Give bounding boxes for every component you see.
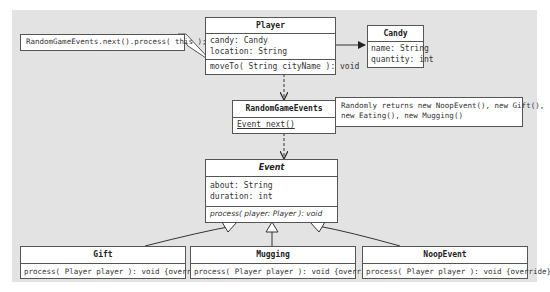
- method: moveTo( String cityName ): void: [210, 61, 331, 72]
- attribute: duration: int: [210, 191, 333, 202]
- method: process( Player player ): void {override…: [24, 266, 182, 277]
- class-noop-event-name: NoopEvent: [363, 247, 527, 264]
- method: process( player: Player ): void: [210, 208, 333, 219]
- class-random-game-events-methods: Event next(): [233, 118, 335, 131]
- attribute: name: String: [371, 43, 420, 54]
- note-next-line2: new Eating(), new Mugging(): [341, 111, 517, 121]
- method: Event next(): [237, 119, 331, 130]
- class-noop-event-methods: process( Player player ): void {override…: [363, 264, 527, 279]
- class-event-attributes: about: String duration: int: [206, 177, 337, 206]
- class-random-game-events-name: RandomGameEvents: [233, 101, 335, 118]
- class-mugging[interactable]: Mugging process( Player player ): void {…: [190, 246, 356, 279]
- method: process( Player player ): void {override…: [366, 266, 524, 277]
- class-player-attributes: candy: Candy location: String: [206, 34, 335, 59]
- class-player[interactable]: Player candy: Candy location: String mov…: [205, 17, 336, 75]
- attribute: quantity: int: [371, 54, 420, 65]
- class-gift-name: Gift: [21, 247, 185, 264]
- class-candy-name: Candy: [368, 26, 423, 42]
- attribute: location: String: [210, 46, 331, 57]
- attribute: about: String: [210, 180, 333, 191]
- class-event[interactable]: Event about: String duration: int proces…: [205, 159, 338, 223]
- note-next: Randomly returns new NoopEvent(), new Gi…: [335, 97, 523, 127]
- class-player-name: Player: [206, 18, 335, 34]
- class-mugging-methods: process( Player player ): void {override…: [191, 264, 355, 279]
- class-mugging-name: Mugging: [191, 247, 355, 264]
- class-gift[interactable]: Gift process( Player player ): void {ove…: [20, 246, 186, 279]
- class-candy[interactable]: Candy name: String quantity: int: [367, 25, 424, 68]
- class-noop-event[interactable]: NoopEvent process( Player player ): void…: [362, 246, 528, 279]
- method: process( Player player ): void {override…: [194, 266, 352, 277]
- class-gift-methods: process( Player player ): void {override…: [21, 264, 185, 279]
- class-random-game-events[interactable]: RandomGameEvents Event next(): [232, 100, 336, 134]
- note-move-to-text: RandomGameEvents.next().process( this );: [26, 37, 207, 46]
- note-next-line1: Randomly returns new NoopEvent(), new Gi…: [341, 101, 517, 111]
- class-candy-attributes: name: String quantity: int: [368, 42, 423, 66]
- class-event-methods: process( player: Player ): void: [206, 206, 337, 220]
- note-move-to: RandomGameEvents.next().process( this );: [20, 34, 185, 51]
- class-player-methods: moveTo( String cityName ): void: [206, 59, 335, 74]
- attribute: candy: Candy: [210, 35, 331, 46]
- class-event-name: Event: [206, 160, 337, 177]
